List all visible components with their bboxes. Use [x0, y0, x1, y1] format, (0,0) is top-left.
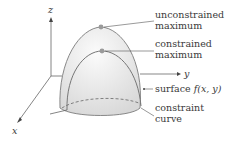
leader-unconstrained: [104, 21, 154, 27]
unconstrained-label-line2: maximum: [155, 21, 202, 31]
constrained-maximum-point: [100, 49, 105, 54]
y-axis: [140, 72, 181, 76]
surface-label: surface f(x, y): [155, 84, 221, 94]
x-axis: [17, 76, 62, 123]
surface-function: f(x, y): [194, 83, 222, 94]
surface-dome: [50, 27, 141, 116]
leader-constraint: [141, 108, 154, 116]
z-axis: [49, 17, 53, 76]
z-axis-label: z: [48, 5, 53, 15]
constrained-label-line1: constrained: [155, 39, 212, 49]
constrained-label-line2: maximum: [155, 50, 202, 60]
y-axis-label: y: [184, 69, 189, 79]
unconstrained-label-line1: unconstrained: [155, 10, 224, 20]
x-axis-label: x: [12, 126, 17, 136]
unconstrained-maximum-point: [99, 25, 104, 30]
constraint-label-line2: curve: [155, 114, 182, 124]
surface-label-text: surface: [155, 83, 194, 94]
diagram-constrained-maximum: z y x unconstrained maximum constrained …: [0, 0, 234, 142]
constraint-label-line1: constraint: [155, 103, 204, 113]
